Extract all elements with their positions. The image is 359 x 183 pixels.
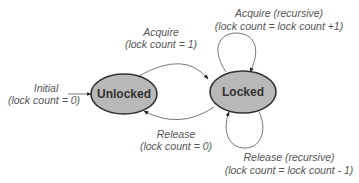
state-locked: Locked — [210, 71, 276, 113]
acquire-recursive-label-line2: (lock count = lock count +1) — [215, 20, 343, 32]
state-diagram: Initial (lock count = 0) Acquire (lock c… — [0, 0, 359, 183]
release-label-line1: Release — [157, 128, 196, 140]
release-recursive-label-line2: (lock count = lock count - 1) — [225, 164, 354, 176]
release-recursive-label-line1: Release (recursive) — [243, 151, 334, 163]
initial-label-line1: Initial — [34, 82, 59, 94]
transition-acquire-recursive: Acquire (recursive) (lock count = lock c… — [215, 7, 343, 72]
release-label-line2: (lock count = 0) — [140, 140, 212, 152]
state-unlocked: Unlocked — [91, 74, 157, 114]
release-recursive-loop — [226, 110, 263, 148]
transition-acquire: Acquire (lock count = 1) — [125, 26, 208, 79]
transition-release: Release (lock count = 0) — [140, 107, 214, 152]
transition-release-recursive: Release (recursive) (lock count = lock c… — [225, 110, 354, 176]
acquire-recursive-label-line1: Acquire (recursive) — [234, 7, 323, 19]
acquire-recursive-loop — [218, 33, 256, 72]
acquire-label-line1: Acquire — [142, 26, 179, 38]
state-unlocked-label: Unlocked — [97, 87, 151, 101]
acquire-label-line2: (lock count = 1) — [125, 38, 197, 50]
state-locked-label: Locked — [222, 85, 264, 99]
acquire-arrow — [139, 64, 208, 79]
release-arrow — [144, 107, 214, 120]
initial-label-line2: (lock count = 0) — [8, 94, 80, 106]
transition-initial: Initial (lock count = 0) — [8, 82, 91, 106]
